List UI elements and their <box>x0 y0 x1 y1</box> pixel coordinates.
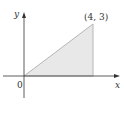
x-axis-label: x <box>115 81 120 90</box>
y-axis-label: y <box>14 10 19 19</box>
origin-label: 0 <box>17 81 23 90</box>
vertex-label: (4, 3) <box>84 13 108 22</box>
shaded-triangle <box>24 24 93 76</box>
y-axis-arrow-icon <box>22 12 26 18</box>
x-axis-arrow-icon <box>114 74 120 78</box>
